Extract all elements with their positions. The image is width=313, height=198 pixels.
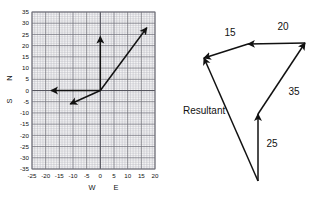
vector-addition-panel: 25 35 20 15 Resultant (0, 0, 313, 198)
vector-label-20: 20 (277, 21, 289, 32)
vector-diagram-canvas: 25 35 20 15 Resultant (0, 0, 313, 198)
vector-label-resultant: Resultant (183, 105, 225, 116)
vector-15 (204, 44, 248, 58)
vector-label-15: 15 (224, 27, 236, 38)
vector-35 (258, 43, 305, 114)
vector-20 (248, 43, 305, 44)
vector-resultant (204, 58, 258, 181)
vector-label-25: 25 (266, 138, 278, 149)
vector-label-35: 35 (288, 86, 300, 97)
figure-root: -25-20-15-10-505101520 35302520151050-5-… (0, 0, 313, 198)
